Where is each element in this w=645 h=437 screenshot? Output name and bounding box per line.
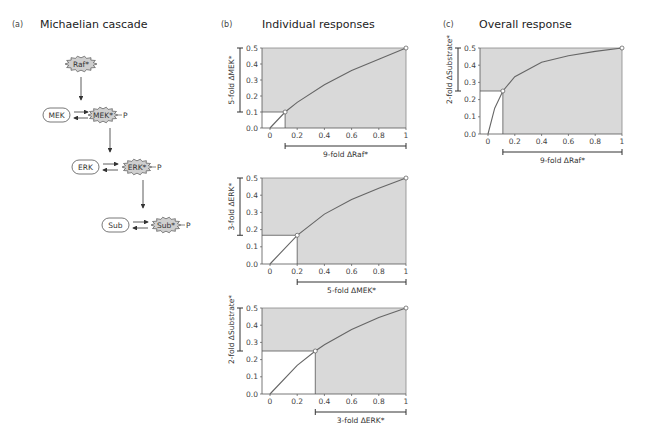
x-tick-label: 0.8 (589, 137, 601, 146)
y-axis-label: 5-fold ΔMEK* (227, 55, 236, 104)
y-tick-label: 0.0 (246, 260, 258, 269)
x-tick-label: 0.4 (318, 131, 330, 140)
shaded-region (262, 48, 406, 128)
shaded-region (262, 178, 406, 264)
chart-b-1: 0.00.10.20.30.40.500.20.40.60.819-fold Δ… (227, 44, 409, 160)
y-tick-label: 0.3 (246, 76, 258, 85)
y-axis-label: 2-fold ΔSubstrate* (445, 35, 454, 104)
marked-point (313, 349, 317, 353)
x-tick-label: 0.6 (562, 137, 574, 146)
x-tick-label: 0.4 (536, 137, 548, 146)
y-tick-label: 0.2 (246, 225, 258, 234)
y-axis-label: 3-fold ΔERK* (227, 183, 236, 231)
x-tick-label: 0.4 (318, 267, 330, 276)
y-tick-label: 0.4 (464, 61, 476, 70)
y-tick-label: 0.5 (246, 44, 258, 53)
y-tick-label: 0.3 (246, 338, 258, 347)
chart-b-3: 0.00.10.20.30.40.500.20.40.60.813-fold Δ… (227, 295, 409, 425)
x-tick-label: 0 (486, 137, 491, 146)
x-axis-label: 5-fold ΔMEK* (327, 286, 376, 295)
marked-point (501, 89, 505, 93)
chart-c: 0.00.10.20.30.40.500.20.40.60.819-fold Δ… (445, 35, 625, 165)
x-tick-label: 0.2 (509, 137, 521, 146)
marked-point (404, 176, 408, 180)
charts: 0.00.10.20.30.40.500.20.40.60.819-fold Δ… (0, 0, 645, 437)
x-tick-label: 0 (268, 267, 273, 276)
x-tick-label: 1 (620, 137, 625, 146)
y-tick-label: 0.3 (464, 78, 476, 87)
y-tick-label: 0.5 (464, 44, 476, 53)
y-tick-label: 0.4 (246, 60, 258, 69)
y-tick-label: 0.1 (246, 372, 258, 381)
x-tick-label: 0.2 (291, 131, 303, 140)
x-tick-label: 0 (268, 131, 273, 140)
y-tick-label: 0.2 (246, 92, 258, 101)
x-axis-label: 9-fold ΔRaf* (323, 150, 368, 159)
x-axis-label: 3-fold ΔERK* (337, 416, 385, 425)
marked-point (620, 46, 624, 50)
x-tick-label: 0.8 (373, 131, 385, 140)
x-tick-label: 1 (404, 131, 409, 140)
y-axis-label: 2-fold ΔSubstrate* (227, 295, 236, 364)
x-tick-label: 0.4 (318, 397, 330, 406)
y-tick-label: 0.4 (246, 191, 258, 200)
x-tick-label: 0.6 (346, 397, 358, 406)
y-tick-label: 0.0 (246, 390, 258, 399)
y-tick-label: 0.0 (464, 130, 476, 139)
y-tick-label: 0.5 (246, 304, 258, 313)
marked-point (404, 306, 408, 310)
chart-b-2: 0.00.10.20.30.40.500.20.40.60.815-fold Δ… (227, 174, 409, 296)
y-tick-label: 0.2 (464, 95, 476, 104)
y-tick-label: 0.4 (246, 321, 258, 330)
x-tick-label: 0 (268, 397, 273, 406)
y-tick-label: 0.1 (246, 242, 258, 251)
marked-point (404, 46, 408, 50)
marked-point (295, 233, 299, 237)
y-tick-label: 0.5 (246, 174, 258, 183)
x-tick-label: 0.8 (373, 267, 385, 276)
y-tick-label: 0.3 (246, 208, 258, 217)
y-tick-label: 0.1 (246, 108, 258, 117)
x-axis-label: 9-fold ΔRaf* (540, 156, 585, 165)
y-tick-label: 0.2 (246, 355, 258, 364)
x-tick-label: 0.2 (291, 397, 303, 406)
marked-point (283, 110, 287, 114)
x-tick-label: 1 (404, 397, 409, 406)
x-tick-label: 0.6 (346, 131, 358, 140)
y-tick-label: 0.1 (464, 112, 476, 121)
x-tick-label: 0.6 (346, 267, 358, 276)
x-tick-label: 0.2 (291, 267, 303, 276)
x-tick-label: 0.8 (373, 397, 385, 406)
x-tick-label: 1 (404, 267, 409, 276)
y-tick-label: 0.0 (246, 124, 258, 133)
